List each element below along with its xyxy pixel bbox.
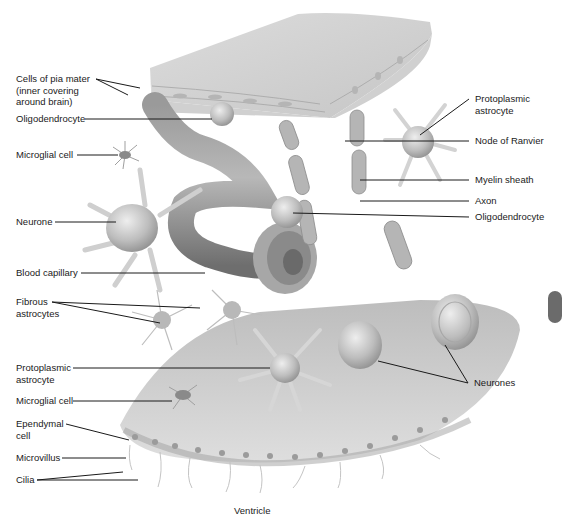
pia-mater [150,13,432,118]
label-ventricle: Ventricle [234,505,270,517]
side-tab-handle[interactable] [548,291,562,323]
label-oligodendrocyte-left: Oligodendrocyte [16,113,85,125]
label-microvillus: Microvillus [16,452,60,464]
label-cells-of-pia-mater: Cells of pia mater (inner covering aroun… [16,73,90,108]
label-node-of-ranvier: Node of Ranvier [475,135,544,147]
label-ependymal-cell: Ependymal cell [16,418,64,441]
label-neurones: Neurones [474,377,515,389]
label-blood-capillary: Blood capillary [16,267,78,279]
label-microglial-cell-top: Microglial cell [16,149,73,161]
label-fibrous-astrocytes: Fibrous astrocytes [16,296,59,319]
label-myelin-sheath: Myelin sheath [475,174,534,186]
label-axon: Axon [475,195,497,207]
label-protoplasmic-astrocyte-left: Protoplasmic astrocyte [16,362,71,385]
label-neurone: Neurone [16,216,52,228]
label-oligodendrocyte-right: Oligodendrocyte [475,211,544,223]
label-protoplasmic-astrocyte-right: Protoplasmic astrocyte [475,93,530,116]
label-microglial-cell-bottom: Microglial cell [16,395,73,407]
label-cilia: Cilia [16,474,34,486]
